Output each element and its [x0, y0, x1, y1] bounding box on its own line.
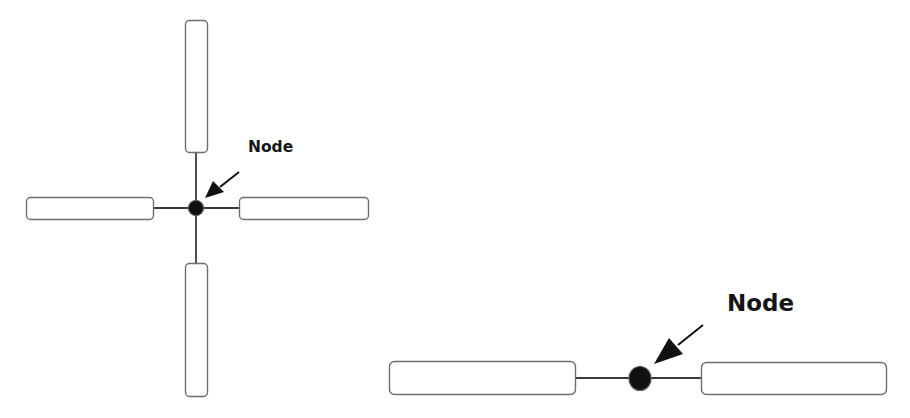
node-label: Node	[248, 138, 293, 156]
left-bar	[390, 362, 576, 395]
right-bar	[240, 198, 369, 220]
inline-junction-diagram: Node	[390, 290, 887, 395]
node-label: Node	[727, 290, 794, 316]
node-dot	[189, 201, 204, 216]
left-bar	[27, 198, 154, 220]
node-dot	[629, 367, 651, 391]
arrow-icon	[205, 172, 239, 198]
right-bar	[702, 363, 887, 395]
node-diagram: Node Node	[0, 0, 910, 418]
top-bar	[186, 21, 208, 153]
bottom-bar	[186, 264, 208, 397]
cross-junction-diagram: Node	[27, 21, 369, 397]
arrow-icon	[654, 325, 703, 364]
